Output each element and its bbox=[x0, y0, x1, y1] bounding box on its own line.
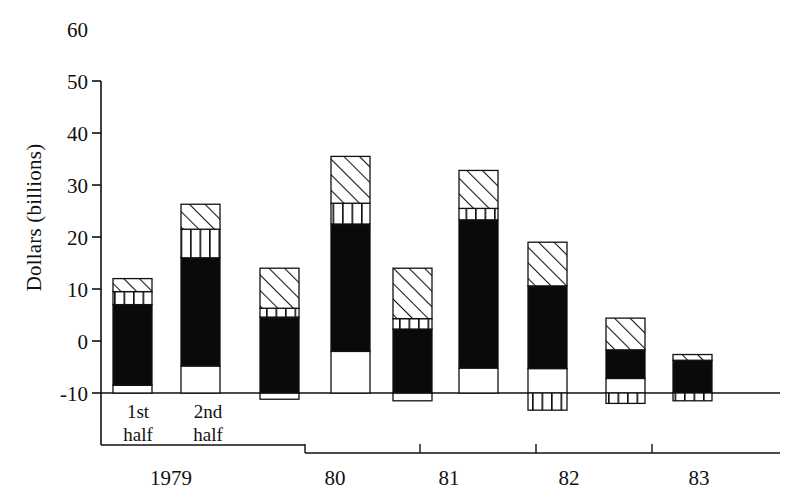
bar-group-5 bbox=[459, 170, 498, 393]
x-group-label-83: 83 bbox=[654, 468, 744, 489]
y-tick-label-minus-10: -10 bbox=[36, 384, 88, 405]
bar-7-segment-vstripe bbox=[606, 393, 645, 403]
bar-0-segment-white bbox=[113, 385, 152, 393]
y-tick-label-0: 0 bbox=[42, 332, 88, 353]
y-tick-label-10: 10 bbox=[42, 280, 88, 301]
bar-2-segment-white bbox=[260, 393, 299, 399]
bar-4-segment-vstripe bbox=[393, 319, 432, 329]
bar-2-segment-black bbox=[260, 317, 299, 393]
chart-root: Dollars (billions) 60 50 40 30 20 10 0 -… bbox=[0, 0, 789, 499]
bar-8-segment-diag bbox=[673, 355, 712, 361]
bar-3-segment-white bbox=[331, 351, 370, 393]
bar-7-segment-black bbox=[606, 350, 645, 379]
bar-5-segment-white bbox=[459, 368, 498, 393]
bar-8-segment-black bbox=[673, 360, 712, 393]
y-tick-label-30: 30 bbox=[42, 176, 88, 197]
bar-7-segment-white bbox=[606, 378, 645, 393]
bar-0-segment-black bbox=[113, 305, 152, 386]
bar-0-segment-diag bbox=[113, 279, 152, 292]
bar-1-segment-vstripe bbox=[181, 229, 220, 258]
bar-1-segment-white bbox=[181, 366, 220, 393]
period-annotation-1st-line1: 1st bbox=[127, 401, 149, 422]
bar-group-1 bbox=[181, 204, 220, 393]
x-group-label-81: 81 bbox=[404, 468, 494, 489]
bar-6-segment-diag bbox=[528, 242, 567, 286]
y-tick-label-60: 60 bbox=[42, 20, 88, 41]
x-group-label-80: 80 bbox=[290, 468, 380, 489]
bar-group-6 bbox=[528, 242, 567, 410]
bars-layer bbox=[113, 156, 712, 410]
bar-4-segment-white bbox=[393, 393, 432, 401]
bar-3-segment-black bbox=[331, 224, 370, 351]
x-group-label-1979: 1979 bbox=[126, 468, 216, 489]
period-annotation-2nd-line1: 2nd bbox=[194, 401, 223, 422]
bar-3-segment-vstripe bbox=[331, 203, 370, 224]
bar-6-segment-black bbox=[528, 286, 567, 369]
bar-group-4 bbox=[393, 268, 432, 401]
bar-5-segment-diag bbox=[459, 170, 498, 208]
bar-5-segment-vstripe bbox=[459, 208, 498, 219]
bar-group-8 bbox=[673, 355, 712, 401]
bar-group-7 bbox=[606, 318, 645, 403]
y-tick-label-40: 40 bbox=[42, 124, 88, 145]
period-annotation-2nd-half: 2nd half bbox=[172, 400, 244, 446]
bar-1-segment-black bbox=[181, 258, 220, 366]
bar-group-2 bbox=[260, 268, 299, 399]
y-tick-label-50: 50 bbox=[42, 72, 88, 93]
bar-0-segment-vstripe bbox=[113, 292, 152, 305]
bar-group-0 bbox=[113, 279, 152, 393]
period-annotation-1st-line2: half bbox=[123, 424, 153, 445]
period-annotation-1st-half: 1st half bbox=[105, 400, 171, 446]
bar-2-segment-diag bbox=[260, 268, 299, 308]
period-annotation-2nd-line2: half bbox=[193, 424, 223, 445]
bar-3-segment-diag bbox=[331, 156, 370, 203]
bar-4-segment-black bbox=[393, 329, 432, 393]
bar-4-segment-diag bbox=[393, 268, 432, 318]
bar-group-3 bbox=[331, 156, 370, 393]
bar-8-segment-vstripe bbox=[673, 393, 712, 401]
bar-2-segment-vstripe bbox=[260, 308, 299, 317]
x-group-label-82: 82 bbox=[524, 468, 614, 489]
bar-6-segment-white bbox=[528, 369, 567, 393]
bar-7-segment-diag bbox=[606, 318, 645, 350]
y-tick-label-20: 20 bbox=[42, 228, 88, 249]
bar-6-segment-vstripe bbox=[528, 393, 567, 410]
bar-1-segment-diag bbox=[181, 204, 220, 229]
bar-5-segment-black bbox=[459, 220, 498, 368]
